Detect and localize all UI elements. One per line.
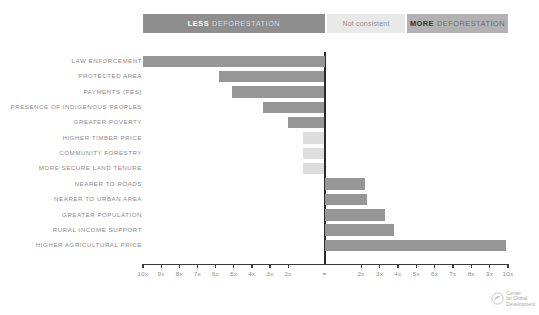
chart-row: NEARER TO URBAN AREA <box>0 192 539 207</box>
x-axis-tick <box>489 264 490 268</box>
bar-greater-poverty <box>288 117 324 129</box>
legend-less-strong: LESS <box>188 19 209 28</box>
category-label: RURAL INCOME SUPPORT <box>53 226 142 233</box>
cgd-logo-text: Center for Global Development <box>506 291 535 307</box>
bar-rural-income-support <box>325 224 395 236</box>
bar-community-forestry <box>303 148 325 160</box>
category-label: COMMUNITY FORESTRY <box>59 149 142 156</box>
bar-payments-pes- <box>232 86 325 98</box>
category-label: PRESENCE OF INDIGENOUS PEOPLES <box>11 103 142 110</box>
legend-not-consistent-label: Not consistent <box>342 20 389 27</box>
category-label: HIGHER TIMBER PRICE <box>62 134 142 141</box>
plot-area: LAW ENFORCEMENTPROTECTED AREAPAYMENTS (P… <box>0 52 539 264</box>
legend-less-deforestation: LESSDEFORESTATION <box>143 14 325 33</box>
x-axis-tick <box>471 264 472 268</box>
legend-less-rest: DEFORESTATION <box>212 19 280 28</box>
deforestation-drivers-chart: LESSDEFORESTATION Not consistent MOREDEF… <box>0 0 539 315</box>
legend-more-deforestation: MOREDEFORESTATION <box>407 14 508 33</box>
chart-row: NEARER TO ROADS <box>0 177 539 192</box>
bar-greater-population <box>325 209 386 221</box>
x-axis-tick <box>251 264 252 268</box>
chart-row: PAYMENTS (PES) <box>0 85 539 100</box>
bar-nearer-to-urban-area <box>325 194 367 206</box>
legend-not-consistent: Not consistent <box>327 14 405 33</box>
category-label: NEARER TO URBAN AREA <box>54 195 142 202</box>
figure-caption <box>60 310 470 315</box>
legend-more-rest: DEFORESTATION <box>437 19 505 28</box>
x-axis-tick <box>197 264 198 268</box>
legend-more-strong: MORE <box>410 19 434 28</box>
x-axis-tick-label: 3x <box>376 270 383 277</box>
category-label: MORE SECURE LAND TENURE <box>39 164 142 171</box>
bar-protected-area <box>219 71 324 83</box>
x-axis-tick-label: 9x <box>158 270 165 277</box>
x-axis-tick-label: 10x <box>138 270 149 277</box>
chart-row: HIGHER TIMBER PRICE <box>0 131 539 146</box>
category-label: HIGHER AGRICULTURAL PRICE <box>36 241 142 248</box>
x-axis-tick-label: 4x <box>248 270 255 277</box>
x-axis-tick-label: 7x <box>449 270 456 277</box>
x-axis-tick-label: 9x <box>486 270 493 277</box>
x-axis-tick <box>269 264 270 268</box>
category-label: PAYMENTS (PES) <box>83 88 142 95</box>
x-axis-tick <box>416 264 417 268</box>
x-axis-tick <box>161 264 162 268</box>
x-axis-tick-label: 4x <box>394 270 401 277</box>
chart-row: RURAL INCOME SUPPORT <box>0 223 539 238</box>
bar-higher-agricultural-price <box>325 240 507 252</box>
x-axis-tick-label: 10x <box>503 270 514 277</box>
legend-band: LESSDEFORESTATION Not consistent MOREDEF… <box>143 14 508 33</box>
cgd-logo-icon <box>491 292 504 305</box>
category-label: GREATER POVERTY <box>74 118 142 125</box>
chart-row: HIGHER AGRICULTURAL PRICE <box>0 238 539 253</box>
x-axis-tick-label: 8x <box>176 270 183 277</box>
x-axis-tick-label: 2x <box>358 270 365 277</box>
x-axis-tick-label: 5x <box>413 270 420 277</box>
x-axis-tick <box>233 264 234 268</box>
x-axis: 10x9x8x7x6x5x4x3x2x=2x3x4x5x6x7x8x9x10x <box>0 264 539 276</box>
category-label: LAW ENFORCEMENT <box>72 57 142 64</box>
chart-row: GREATER POVERTY <box>0 115 539 130</box>
x-axis-tick <box>142 264 143 268</box>
cgd-logo: Center for Global Development <box>491 291 535 307</box>
x-axis-tick <box>179 264 180 268</box>
bar-presence-of-indigenous-peoples <box>263 102 325 114</box>
chart-row: COMMUNITY FORESTRY <box>0 146 539 161</box>
x-axis-tick <box>434 264 435 268</box>
x-axis-tick-label: 6x <box>431 270 438 277</box>
x-axis-tick <box>361 264 362 268</box>
x-axis-tick <box>288 264 289 268</box>
x-axis-tick <box>507 264 508 268</box>
x-axis-tick <box>379 264 380 268</box>
x-axis-tick <box>215 264 216 268</box>
bar-more-secure-land-tenure <box>303 163 325 175</box>
cgd-logo-line3: Development <box>506 302 535 307</box>
bar-higher-timber-price <box>303 132 325 144</box>
category-label: PROTECTED AREA <box>78 72 142 79</box>
x-axis-tick-label: 8x <box>468 270 475 277</box>
category-label: NEARER TO ROADS <box>75 180 142 187</box>
x-axis-tick-label: 2x <box>285 270 292 277</box>
x-axis-tick-label: 6x <box>212 270 219 277</box>
chart-row: LAW ENFORCEMENT <box>0 54 539 69</box>
x-axis-tick-label: 5x <box>230 270 237 277</box>
x-axis-tick-label: 3x <box>266 270 273 277</box>
x-axis-tick-label: 7x <box>194 270 201 277</box>
chart-row: GREATER POPULATION <box>0 208 539 223</box>
bar-law-enforcement <box>143 56 325 68</box>
chart-row: PRESENCE OF INDIGENOUS PEOPLES <box>0 100 539 115</box>
category-label: GREATER POPULATION <box>62 211 142 218</box>
x-axis-tick <box>397 264 398 268</box>
chart-row: MORE SECURE LAND TENURE <box>0 161 539 176</box>
x-axis-tick <box>452 264 453 268</box>
x-axis-tick-label: = <box>323 270 327 277</box>
chart-row: PROTECTED AREA <box>0 69 539 84</box>
bar-nearer-to-roads <box>325 178 365 190</box>
